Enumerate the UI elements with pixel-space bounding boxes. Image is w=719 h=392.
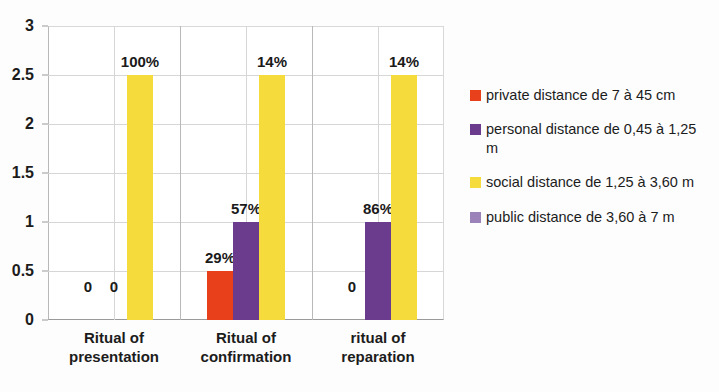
bar-data-label: 14% <box>389 53 419 70</box>
bar <box>365 222 391 320</box>
plot-region: 00100%29%57%14%086%14% <box>48 26 444 320</box>
y-axis: 00.511.522.53 <box>0 0 44 392</box>
category-label-line: ritual of <box>341 328 414 347</box>
legend-entry[interactable]: public distance de 3,60 à 7 m <box>470 208 715 227</box>
bar-data-label: 29% <box>205 249 235 266</box>
y-axis-tick-label: 0.5 <box>12 262 34 280</box>
bar-data-label: 0 <box>84 278 92 295</box>
bar-data-label: 0 <box>348 278 356 295</box>
bar <box>233 222 259 320</box>
bar-data-label: 86% <box>363 200 393 217</box>
legend-entry[interactable]: personal distance de 0,45 à 1,25 m <box>470 120 715 158</box>
legend-entry[interactable]: social distance de 1,25 à 3,60 m <box>470 173 715 192</box>
category-separator-gridline <box>180 26 181 320</box>
bar <box>259 75 285 320</box>
bar <box>207 271 233 320</box>
legend-label: social distance de 1,25 à 3,60 m <box>486 173 694 192</box>
legend-swatch-icon <box>470 212 481 223</box>
legend: private distance de 7 à 45 cmpersonal di… <box>470 86 715 242</box>
legend-swatch-icon <box>470 124 481 135</box>
category-label-line: presentation <box>69 347 159 366</box>
category-label-line: Ritual of <box>69 328 159 347</box>
bar-data-label: 100% <box>121 53 159 70</box>
minor-vertical-gridline <box>114 26 115 320</box>
category-label-line: confirmation <box>201 347 292 366</box>
bar-data-label: 57% <box>231 200 261 217</box>
x-axis-category-label: Ritual ofconfirmation <box>201 328 292 366</box>
x-axis-category-label: Ritual ofpresentation <box>69 328 159 366</box>
category-separator-gridline <box>312 26 313 320</box>
category-label-line: reparation <box>341 347 414 366</box>
category-label-line: Ritual of <box>201 328 292 347</box>
bar <box>127 75 153 320</box>
legend-swatch-icon <box>470 90 481 101</box>
y-axis-tick-label: 2.5 <box>12 66 34 84</box>
legend-label: private distance de 7 à 45 cm <box>486 86 675 105</box>
y-axis-tick-label: 3 <box>25 17 34 35</box>
bar <box>391 75 417 320</box>
bar-data-label: 0 <box>110 278 118 295</box>
y-axis-tick-label: 1 <box>25 213 34 231</box>
bar-chart-figure: 00.511.522.53 00100%29%57%14%086%14% Rit… <box>0 0 719 392</box>
x-axis-category-label: ritual ofreparation <box>341 328 414 366</box>
y-axis-tick-label: 2 <box>25 115 34 133</box>
y-axis-tick-label: 1.5 <box>12 164 34 182</box>
legend-label: personal distance de 0,45 à 1,25 m <box>486 120 704 158</box>
legend-entry[interactable]: private distance de 7 à 45 cm <box>470 86 715 105</box>
y-axis-tick-label: 0 <box>25 311 34 329</box>
bar-data-label: 14% <box>257 53 287 70</box>
legend-swatch-icon <box>470 177 481 188</box>
legend-label: public distance de 3,60 à 7 m <box>486 208 675 227</box>
